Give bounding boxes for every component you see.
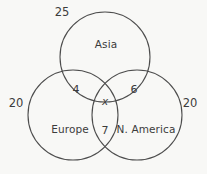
outside-count-europe: 20 [9,98,24,110]
outside-count-asia: 25 [55,7,70,19]
outside-count-north-america: 20 [183,98,198,110]
set-label-north-america: N. America [117,124,176,135]
region-count-asia-europe: 4 [73,84,80,95]
venn-diagram: Asia Europe N. America 25 20 20 4 6 x 7 [0,0,207,174]
set-label-asia: Asia [95,39,117,50]
region-count-europe-north-america: 7 [102,125,109,136]
venn-circles-group [0,0,207,174]
region-count-all-three: x [102,96,108,107]
region-count-asia-north-america: 6 [131,84,138,95]
set-label-europe: Europe [51,124,89,135]
